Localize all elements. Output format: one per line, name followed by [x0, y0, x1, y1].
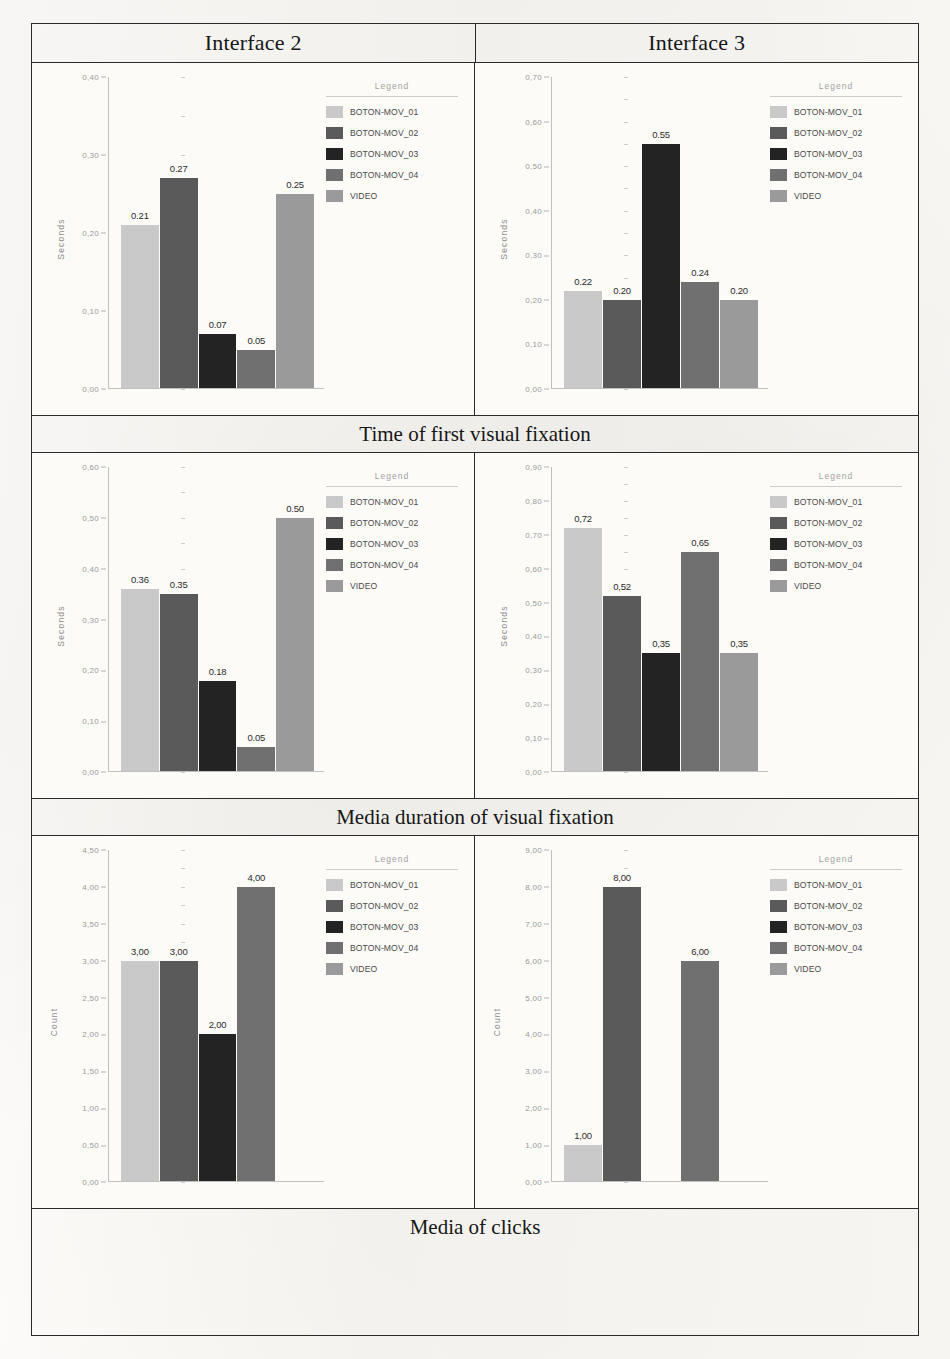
legend-item[interactable]: BOTON-MOV_04: [326, 559, 458, 571]
bar-boton-mov_04: 0.24: [681, 282, 719, 389]
bar-boton-mov_03: 2,00: [199, 1034, 237, 1182]
x-axis-line: [552, 771, 768, 772]
y-axis-tick-label: 1,00: [525, 1141, 549, 1150]
legend-swatch-icon: [326, 538, 343, 550]
bar-slot: 3,00: [160, 850, 198, 1182]
legend-swatch-icon: [326, 963, 343, 975]
legend-item-label: BOTON-MOV_01: [794, 497, 862, 507]
bar-slot: 0,72: [564, 467, 602, 772]
legend-item[interactable]: VIDEO: [770, 580, 902, 592]
legend-item[interactable]: VIDEO: [326, 190, 458, 202]
legend-title: Legend: [770, 854, 902, 864]
legend-item[interactable]: BOTON-MOV_02: [770, 517, 902, 529]
legend-item-label: VIDEO: [350, 581, 377, 591]
chart-cell-interface2-duration: Seconds0,600,500,400,300,200,100,000.360…: [32, 453, 475, 798]
legend-item[interactable]: BOTON-MOV_01: [770, 496, 902, 508]
y-axis-tick-label: 9,00: [525, 846, 549, 855]
legend-item-label: BOTON-MOV_03: [350, 539, 418, 549]
legend-item[interactable]: BOTON-MOV_03: [326, 921, 458, 933]
legend-item[interactable]: BOTON-MOV_02: [326, 127, 458, 139]
legend-item-label: BOTON-MOV_01: [350, 880, 418, 890]
legend-item[interactable]: BOTON-MOV_04: [326, 942, 458, 954]
plot-area: 3,003,002,004,00: [109, 850, 324, 1182]
bar-boton-mov_02: 0.35: [160, 594, 198, 772]
chart-legend: LegendBOTON-MOV_01BOTON-MOV_02BOTON-MOV_…: [770, 81, 902, 211]
legend-item[interactable]: VIDEO: [326, 963, 458, 975]
legend-swatch-icon: [770, 496, 787, 508]
bar-boton-mov_01: 0,72: [564, 528, 602, 772]
legend-item[interactable]: BOTON-MOV_03: [770, 538, 902, 550]
y-axis-tick-label: 0,20: [82, 229, 106, 238]
legend-item[interactable]: VIDEO: [770, 190, 902, 202]
legend-item[interactable]: BOTON-MOV_03: [326, 148, 458, 160]
y-axis-tick-label: 8,00: [525, 882, 549, 891]
legend-item[interactable]: BOTON-MOV_03: [770, 148, 902, 160]
legend-item[interactable]: BOTON-MOV_03: [770, 921, 902, 933]
legend-swatch-icon: [770, 190, 787, 202]
bar-boton-mov_04: 4,00: [237, 887, 275, 1182]
legend-swatch-icon: [770, 169, 787, 181]
y-axis-tick-label: 0,20: [525, 295, 549, 304]
y-axis-ticks: 9,008,007,006,005,004,003,002,001,000,00: [505, 850, 549, 1182]
legend-title: Legend: [770, 81, 902, 91]
legend-swatch-icon: [326, 517, 343, 529]
legend-swatch-icon: [770, 879, 787, 891]
y-axis-ticks: 0,600,500,400,300,200,100,00: [62, 467, 106, 772]
legend-swatch-icon: [770, 559, 787, 571]
legend-item[interactable]: BOTON-MOV_01: [770, 106, 902, 118]
legend-swatch-icon: [326, 127, 343, 139]
bar-value-label: 2,00: [209, 1019, 227, 1030]
chart-row-media-duration: Seconds0,600,500,400,300,200,100,000.360…: [32, 453, 918, 799]
y-axis-tick-label: 0,30: [82, 615, 106, 624]
legend-item-label: VIDEO: [794, 581, 821, 591]
x-axis-line: [552, 1181, 768, 1182]
caption-media-clicks: Media of clicks: [32, 1209, 918, 1245]
bar-group: 3,003,002,004,00: [121, 850, 314, 1182]
legend-item[interactable]: BOTON-MOV_04: [770, 942, 902, 954]
table-header-row: Interface 2 Interface 3: [32, 24, 918, 63]
bar-slot: 6,00: [681, 850, 719, 1182]
legend-item[interactable]: BOTON-MOV_02: [770, 900, 902, 912]
y-axis-tick-label: 3,50: [82, 919, 106, 928]
bar-value-label: 1,00: [574, 1130, 592, 1141]
bar-value-label: 0.24: [691, 267, 709, 278]
bar-slot: 2,00: [199, 850, 237, 1182]
legend-item-label: VIDEO: [794, 964, 821, 974]
bar-value-label: 0.21: [131, 210, 149, 221]
y-axis-tick-label: 0,40: [525, 206, 549, 215]
legend-item[interactable]: VIDEO: [770, 963, 902, 975]
bar-group: 1,008,006,00: [564, 850, 758, 1182]
bar-boton-mov_03: 0.55: [642, 144, 680, 389]
legend-item[interactable]: BOTON-MOV_02: [326, 517, 458, 529]
legend-swatch-icon: [326, 942, 343, 954]
legend-item[interactable]: BOTON-MOV_01: [326, 879, 458, 891]
bar-value-label: 3,00: [131, 946, 149, 957]
bar-slot: 0,65: [681, 467, 719, 772]
legend-item[interactable]: VIDEO: [326, 580, 458, 592]
legend-item[interactable]: BOTON-MOV_01: [326, 496, 458, 508]
chart-cell-interface3-time: Seconds0,700,600,500,400,300,200,100,000…: [475, 63, 918, 415]
legend-item-label: BOTON-MOV_04: [350, 560, 418, 570]
legend-item[interactable]: BOTON-MOV_01: [770, 879, 902, 891]
bar-slot: 0.05: [237, 467, 275, 772]
legend-item[interactable]: BOTON-MOV_02: [770, 127, 902, 139]
y-axis-tick-label: 0,50: [525, 598, 549, 607]
legend-item[interactable]: BOTON-MOV_01: [326, 106, 458, 118]
plot-area: 1,008,006,00: [552, 850, 768, 1182]
legend-item[interactable]: BOTON-MOV_04: [770, 559, 902, 571]
bar-boton-mov_04: 0.05: [237, 350, 275, 389]
y-axis-tick-label: 4,50: [82, 846, 106, 855]
bar-slot: [720, 850, 758, 1182]
legend-item[interactable]: BOTON-MOV_02: [326, 900, 458, 912]
y-axis-tick-label: 5,00: [525, 993, 549, 1002]
bar-boton-mov_02: 0.27: [160, 178, 198, 389]
legend-item[interactable]: BOTON-MOV_04: [326, 169, 458, 181]
bar-slot: 0.55: [642, 77, 680, 389]
y-axis-tick-label: 0,40: [82, 564, 106, 573]
legend-item[interactable]: BOTON-MOV_04: [770, 169, 902, 181]
y-axis-tick-label: 0,60: [82, 463, 106, 472]
legend-item[interactable]: BOTON-MOV_03: [326, 538, 458, 550]
y-axis-tick-label: 6,00: [525, 956, 549, 965]
legend-item-label: BOTON-MOV_02: [794, 128, 862, 138]
y-axis-tick-label: 0,80: [525, 496, 549, 505]
